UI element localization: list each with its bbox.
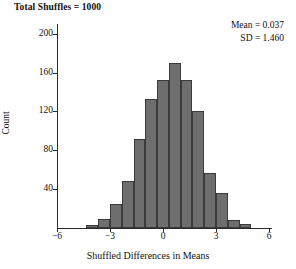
x-tick-label: 0	[148, 231, 178, 241]
y-tick-label: 160	[0, 67, 53, 77]
histogram-figure: Total Shuffles = 1000 Mean = 0.037 SD = …	[0, 0, 296, 269]
histogram-bar	[122, 181, 134, 228]
y-tick-label: 200	[0, 28, 53, 38]
x-tick-mark	[57, 228, 58, 232]
y-tick-label: 80	[0, 144, 53, 154]
histogram-bar	[240, 224, 252, 228]
histogram-bar	[216, 193, 228, 228]
histogram-bar	[157, 80, 169, 228]
y-tick-label: 40	[0, 183, 53, 193]
histogram-bars	[57, 24, 269, 228]
x-tick-label: −6	[42, 231, 72, 241]
x-tick-mark	[110, 228, 111, 232]
x-axis-line	[57, 228, 272, 229]
x-tick-label: −3	[95, 231, 125, 241]
x-tick-mark	[216, 228, 217, 232]
histogram-bar	[98, 219, 110, 228]
histogram-bar	[192, 111, 204, 228]
histogram-bar	[145, 99, 157, 228]
histogram-bar	[169, 63, 181, 228]
histogram-bar	[181, 80, 193, 228]
histogram-bar	[228, 220, 240, 228]
y-tick-label: 120	[0, 105, 53, 115]
x-tick-label: 3	[201, 231, 231, 241]
x-tick-label: 6	[254, 231, 284, 241]
histogram-bar	[110, 204, 122, 228]
x-tick-mark	[163, 228, 164, 232]
x-axis-label: Shuffled Differences in Means	[0, 250, 296, 261]
x-tick-mark	[269, 228, 270, 232]
histogram-bar	[204, 173, 216, 228]
histogram-bar	[134, 139, 146, 228]
histogram-bar	[86, 225, 98, 228]
chart-title: Total Shuffles = 1000	[14, 2, 101, 12]
plot-area	[57, 24, 269, 228]
